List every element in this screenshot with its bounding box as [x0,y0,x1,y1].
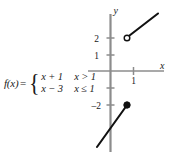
y-tick-label-1: 1 [94,51,99,61]
case-expression: x − 3 [41,84,72,95]
case-condition: x ≤ 1 [72,84,94,95]
case-row: x + 1 x > 1 [41,72,96,83]
upper-branch-ray [130,14,159,36]
x-axis-label: x [159,60,165,71]
y-tick-label-2: 2 [94,34,99,44]
closed-endpoint-marker [124,102,130,108]
function-name-label: f(x) [4,78,18,89]
x-tick-label-1: 1 [131,76,136,86]
case-expression: x + 1 [41,72,72,83]
left-brace: { [29,73,40,94]
y-axis-label: y [113,5,119,16]
piecewise-formula: f(x) = { x + 1 x > 1 x − 3 x ≤ 1 [4,72,96,94]
piecewise-function-figure: y x 2 1 –2 1 f(x) = { x + 1 x > 1 x [0,0,173,156]
case-condition: x > 1 [72,72,96,83]
cases-list: x + 1 x > 1 x − 3 x ≤ 1 [41,72,96,94]
open-endpoint-marker [124,35,130,41]
case-row: x − 3 x ≤ 1 [41,84,96,95]
equals-sign: = [20,78,26,89]
y-tick-label-minus-2: –2 [91,101,102,111]
